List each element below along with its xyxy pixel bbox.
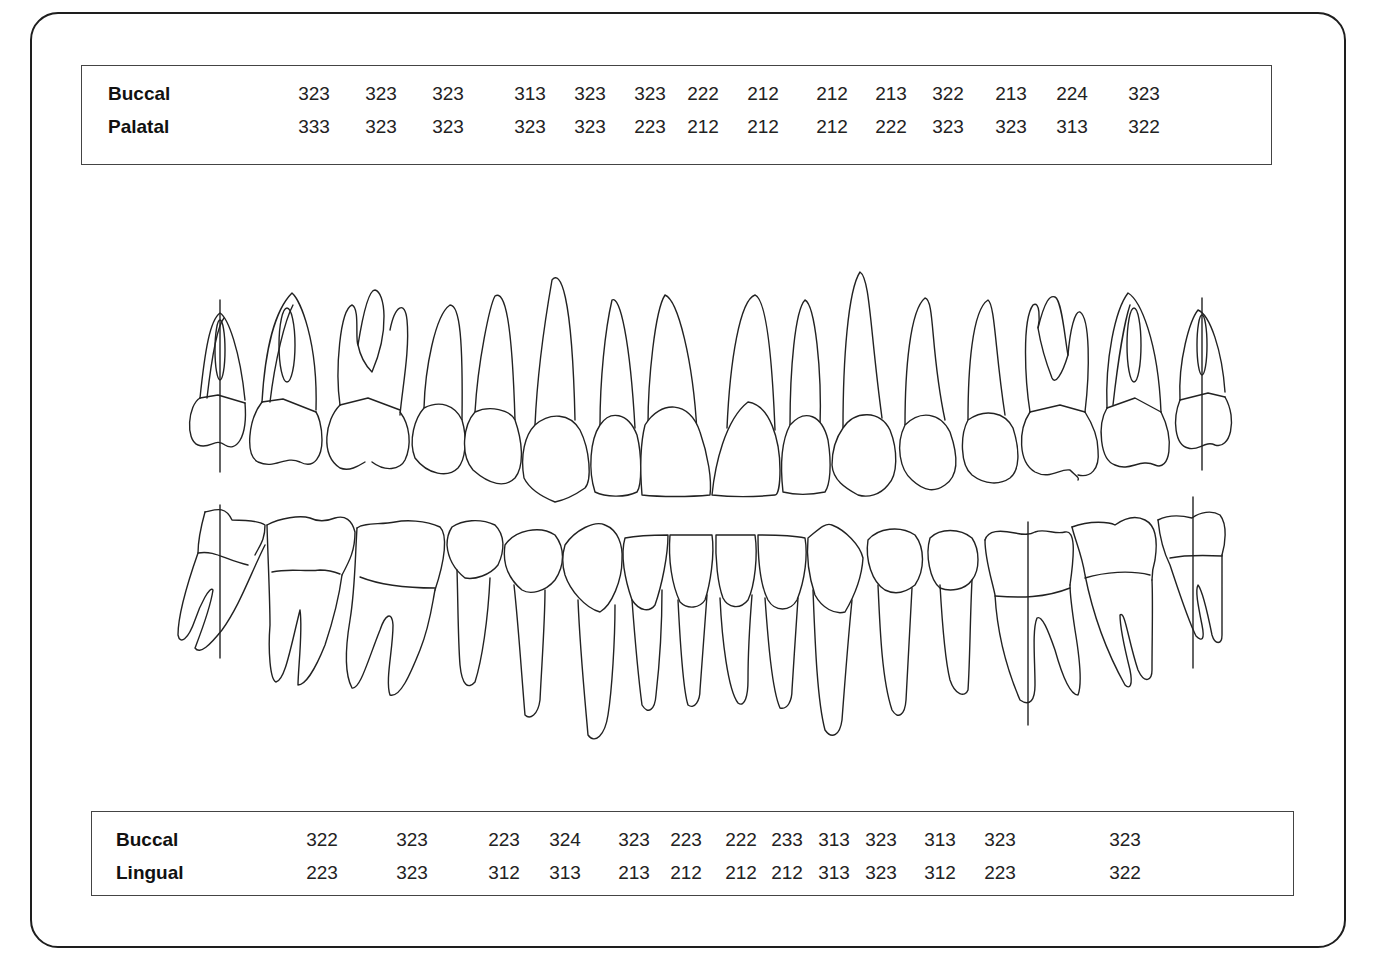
tooth-lower-central-incisor-left — [716, 535, 756, 704]
tooth-upper-first-molar-right — [327, 290, 409, 469]
upper-arch — [190, 272, 1232, 502]
tooth-upper-third-molar-right — [190, 300, 246, 472]
tooth-upper-second-premolar-left — [962, 300, 1018, 483]
tooth-lower-third-molar-right — [178, 505, 265, 658]
tooth-lower-first-premolar-right — [504, 530, 562, 717]
teeth-diagram — [0, 0, 1379, 979]
tooth-lower-canine-left — [807, 524, 863, 735]
tooth-upper-second-molar-right — [250, 293, 322, 464]
lower-arch — [178, 497, 1225, 739]
tooth-upper-first-molar-left — [1022, 297, 1099, 480]
tooth-lower-first-molar-right — [346, 521, 444, 695]
tooth-upper-first-premolar-right — [465, 295, 522, 484]
tooth-lower-second-premolar-left — [928, 531, 978, 695]
tooth-upper-canine-left — [832, 272, 896, 496]
tooth-upper-central-incisor-right — [641, 295, 711, 497]
tooth-lower-second molar-right — [267, 517, 355, 685]
tooth-upper-central-incisor-left — [712, 295, 780, 497]
tooth-lower-canine-right — [563, 524, 622, 739]
tooth-lower-lateral-incisor-left — [758, 535, 806, 708]
tooth-upper-second-premolar-right — [412, 305, 465, 474]
tooth-lower-lateral-incisor-right — [623, 535, 668, 710]
tooth-upper-lateral-incisor-right — [591, 300, 641, 497]
tooth-upper-second-molar-left — [1101, 293, 1169, 467]
tooth-lower-first-molar-left — [985, 522, 1080, 725]
tooth-lower-second-premolar-right — [447, 521, 503, 686]
tooth-upper-canine-right — [523, 278, 590, 502]
tooth-lower-second-molar-left — [1072, 518, 1156, 687]
tooth-upper-lateral-incisor-left — [782, 300, 830, 494]
tooth-lower-third-molar-left — [1158, 497, 1225, 668]
tooth-lower-central-incisor-right — [669, 535, 712, 706]
tooth-upper-third-molar-left — [1176, 298, 1232, 470]
tooth-upper-first-premolar-left — [900, 298, 957, 490]
tooth-lower-first-premolar-left — [867, 529, 922, 715]
